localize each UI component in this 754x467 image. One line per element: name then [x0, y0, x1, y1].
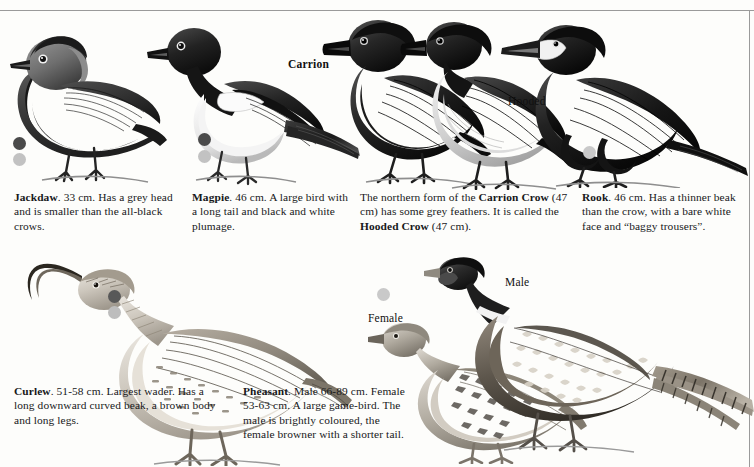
caption-magpie-name: Magpie — [192, 191, 229, 203]
caption-crow-lead: The northern form of the — [360, 191, 479, 203]
caption-curlew-name: Curlew — [14, 385, 51, 397]
caption-crow: The northern form of the Carrion Crow (4… — [360, 190, 574, 233]
caption-rook: Rook. 46 cm. Has a thinner beak than the… — [582, 190, 746, 233]
label-hooded: Hooded — [508, 95, 546, 107]
jackdaw-illustration — [8, 14, 168, 184]
caption-crow-name-hooded: Hooded Crow — [360, 220, 429, 232]
curlew-dot-dark — [108, 290, 121, 303]
pheasant-dot-light — [377, 288, 390, 301]
caption-pheasant-name: Pheasant — [243, 385, 288, 397]
caption-crow-tail: (47 cm). — [429, 220, 471, 232]
field-guide-page: Carrion Hooded Male Female Jackdaw. 33 c… — [0, 0, 754, 467]
magpie-dot-dark — [198, 133, 211, 146]
curlew-dot-light — [108, 306, 121, 319]
caption-magpie: Magpie. 46 cm. A large bird with a long … — [192, 190, 354, 233]
caption-jackdaw: Jackdaw. 33 cm. Has a grey head and is s… — [14, 190, 182, 233]
label-carrion: Carrion — [288, 58, 329, 70]
caption-rook-name: Rook — [582, 191, 608, 203]
jackdaw-dot-light — [13, 153, 26, 166]
right-rule — [749, 10, 750, 467]
magpie-dot-light — [198, 150, 211, 163]
caption-pheasant: Pheasant. Male 66-89 cm. Female 53-63 cm… — [243, 384, 405, 442]
label-female: Female — [368, 312, 403, 324]
rook-dot-light — [583, 146, 596, 159]
caption-curlew: Curlew. 51-58 cm. Largest wader. Has a l… — [14, 384, 218, 427]
top-rule — [0, 10, 754, 11]
pheasant-male-illustration — [418, 248, 754, 460]
jackdaw-dot-dark — [13, 137, 26, 150]
magpie-illustration — [146, 12, 361, 187]
hooded-crow-illustration — [400, 12, 575, 190]
carrion-crow-illustration — [322, 8, 492, 188]
label-male: Male — [505, 276, 529, 288]
caption-crow-name-carrion: Carrion Crow — [479, 191, 549, 203]
caption-jackdaw-name: Jackdaw — [14, 191, 58, 203]
